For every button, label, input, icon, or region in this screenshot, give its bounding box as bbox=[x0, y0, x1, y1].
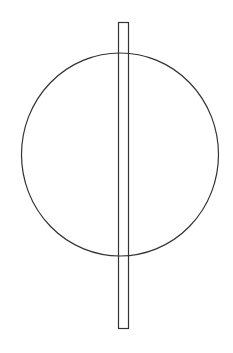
circle-shape bbox=[22, 53, 219, 256]
vertical-bar-rectangle bbox=[119, 23, 129, 329]
diagram-canvas bbox=[0, 0, 233, 353]
diagram-svg bbox=[0, 0, 233, 353]
